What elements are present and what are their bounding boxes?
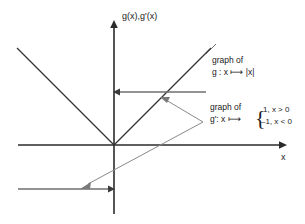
x-axis-label: x (281, 152, 286, 162)
abs-right-branch (114, 48, 211, 145)
axes-group (18, 20, 287, 214)
leader-to-positive-step (166, 100, 203, 122)
callout-leaders (80, 44, 216, 189)
deriv-annotation-line-2: g': x ⟼ (210, 114, 241, 124)
leader-to-negative-step (88, 122, 203, 184)
leader-positive-arrowhead (160, 97, 170, 103)
figure-canvas: g(x),g'(x) x graph of g : x ⟼ |x| graph … (0, 0, 305, 224)
abs-annotation-line-2: g : x ⟼ |x| (212, 67, 254, 77)
abs-left-branch (17, 48, 114, 145)
deriv-annotation-line-1: graph of (210, 102, 242, 112)
absolute-value-derivative-graph: g(x),g'(x) x graph of g : x ⟼ |x| graph … (0, 0, 305, 224)
abs-graph-annotation: graph of g : x ⟼ |x| (212, 55, 254, 77)
deriv-case-negative: –1, x < 0 (261, 117, 292, 126)
y-axis-label: g(x),g'(x) (122, 11, 157, 21)
y-axis-arrowhead (110, 20, 118, 28)
derivative-graph-annotation: graph of g': x ⟼ { 1, x > 0 –1, x < 0 (210, 102, 292, 130)
leader-negative-arrowhead (80, 182, 91, 189)
leader-to-abs-graph (206, 44, 216, 54)
deriv-case-positive: 1, x > 0 (263, 105, 290, 114)
x-axis-arrowhead (279, 141, 287, 149)
abs-annotation-line-1: graph of (212, 55, 244, 65)
derivative-step-curve (18, 88, 206, 192)
